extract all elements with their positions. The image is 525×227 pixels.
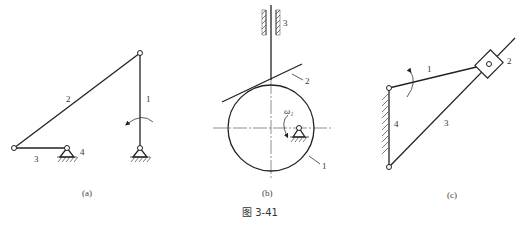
ground-hatch-icon	[382, 94, 388, 154]
label-link-2: 2	[66, 94, 71, 104]
figure-3-41: 2 1 3 4 (a)	[0, 0, 525, 227]
label-omega: ω₁	[284, 106, 293, 116]
rotation-arrow-icon	[284, 115, 288, 136]
label-link-4: 4	[80, 147, 85, 157]
crank-1	[389, 64, 489, 88]
follower-face-2	[222, 64, 302, 102]
label-face-2: 2	[305, 76, 310, 86]
caption-b: (b)	[262, 188, 273, 198]
subfigure-c: 1 2 3 4 (c)	[382, 38, 515, 200]
label-cam-1: 1	[322, 161, 327, 171]
label-slider-2: 2	[507, 56, 512, 66]
label-crank-1: 1	[427, 64, 432, 74]
caption-a: (a)	[82, 188, 92, 198]
label-link-1: 1	[146, 94, 151, 104]
joint	[12, 146, 17, 151]
ground-pivot-icon	[130, 146, 151, 163]
link-2	[14, 53, 140, 148]
joint	[387, 165, 392, 170]
subfigure-a: 2 1 3 4 (a)	[12, 51, 154, 199]
label-frame-4: 4	[394, 119, 399, 129]
joint	[138, 51, 143, 56]
label-link-3: 3	[34, 154, 39, 164]
subfigure-b: 3 2 1 ω₁ (b) 图 3-41	[213, 5, 331, 218]
caption-c: (c)	[447, 190, 457, 200]
joint	[487, 62, 492, 67]
label-rocker-3: 3	[444, 118, 449, 128]
joint	[387, 86, 392, 91]
figure-title: 图 3-41	[242, 207, 278, 218]
leader-line	[309, 156, 320, 164]
leader-line	[292, 74, 303, 80]
label-guide-3: 3	[283, 18, 288, 28]
